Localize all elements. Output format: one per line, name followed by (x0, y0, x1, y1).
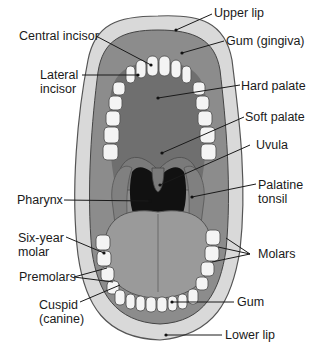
label-cuspid-canine: Cuspid (canine) (39, 298, 84, 326)
label-lateral-incisor: Lateral incisor (40, 68, 78, 96)
label-palatine-tonsil: Palatine tonsil (258, 178, 303, 206)
label-gum-gingiva: Gum (gingiva) (226, 34, 305, 48)
label-soft-palate: Soft palate (245, 110, 305, 124)
label-premolars: Premolars (19, 270, 76, 284)
label-upper-lip: Upper lip (214, 6, 264, 20)
label-pharynx: Pharynx (17, 193, 63, 207)
label-central-incisor: Central incisor (19, 29, 99, 43)
label-lower-lip: Lower lip (225, 328, 275, 342)
label-uvula: Uvula (256, 138, 288, 152)
label-molars: Molars (258, 247, 296, 261)
label-hard-palate: Hard palate (241, 79, 306, 93)
label-six-year-molar: Six-year molar (18, 231, 64, 259)
label-gum: Gum (237, 295, 264, 309)
